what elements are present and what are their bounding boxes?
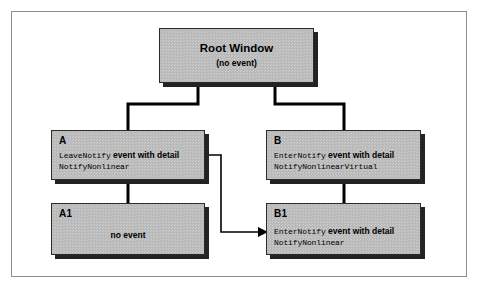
root-window-subtitle: (no event) — [160, 58, 313, 68]
node-root-window: Root Window (no event) — [159, 28, 314, 83]
node-a-detail-name: NotifyNonlinear — [59, 162, 130, 171]
node-b-label: B — [274, 135, 281, 146]
connector-a-to-b1 — [205, 155, 258, 232]
node-b1-detail-name: NotifyNonlinear — [274, 238, 345, 247]
node-b1-description: EnterNotify event with detail NotifyNonl… — [274, 226, 415, 248]
node-a-description: LeaveNotify event with detail NotifyNonl… — [59, 150, 199, 172]
node-b1-label: B1 — [274, 208, 287, 219]
root-window-title: Root Window — [160, 42, 313, 54]
node-b-event-name: EnterNotify — [274, 151, 326, 160]
connector-root-to-b — [275, 83, 344, 130]
connector-root-to-a — [128, 83, 198, 130]
node-b-detail-phrase: event with detail — [326, 150, 395, 160]
node-b-description: EnterNotify event with detail NotifyNonl… — [274, 150, 415, 172]
node-a1-label: A1 — [59, 208, 72, 219]
node-a-label: A — [59, 135, 66, 146]
node-b-detail-name: NotifyNonlinearVirtual — [274, 162, 377, 171]
node-b1-detail-phrase: event with detail — [326, 226, 395, 236]
node-a-detail-phrase: event with detail — [111, 150, 180, 160]
node-a: A LeaveNotify event with detail NotifyNo… — [51, 130, 205, 180]
diagram-canvas: Root Window (no event) A LeaveNotify eve… — [0, 0, 481, 293]
node-a1: A1 no event — [51, 203, 205, 255]
node-b1: B1 EnterNotify event with detail NotifyN… — [266, 203, 421, 255]
node-a1-description: no event — [52, 230, 204, 240]
node-b1-event-name: EnterNotify — [274, 227, 326, 236]
node-a-event-name: LeaveNotify — [59, 151, 111, 160]
node-b: B EnterNotify event with detail NotifyNo… — [266, 130, 421, 180]
